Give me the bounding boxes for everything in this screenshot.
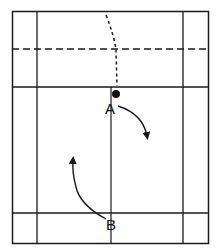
player-a-label: A [105,100,115,117]
shuttle-trajectory [106,15,117,86]
player-b-label: B [106,216,116,233]
player-a-movement-arrow [118,106,147,136]
shuttlecock [112,90,120,98]
player-b-movement-arrow [73,160,106,219]
court-diagram: A B [0,0,217,249]
